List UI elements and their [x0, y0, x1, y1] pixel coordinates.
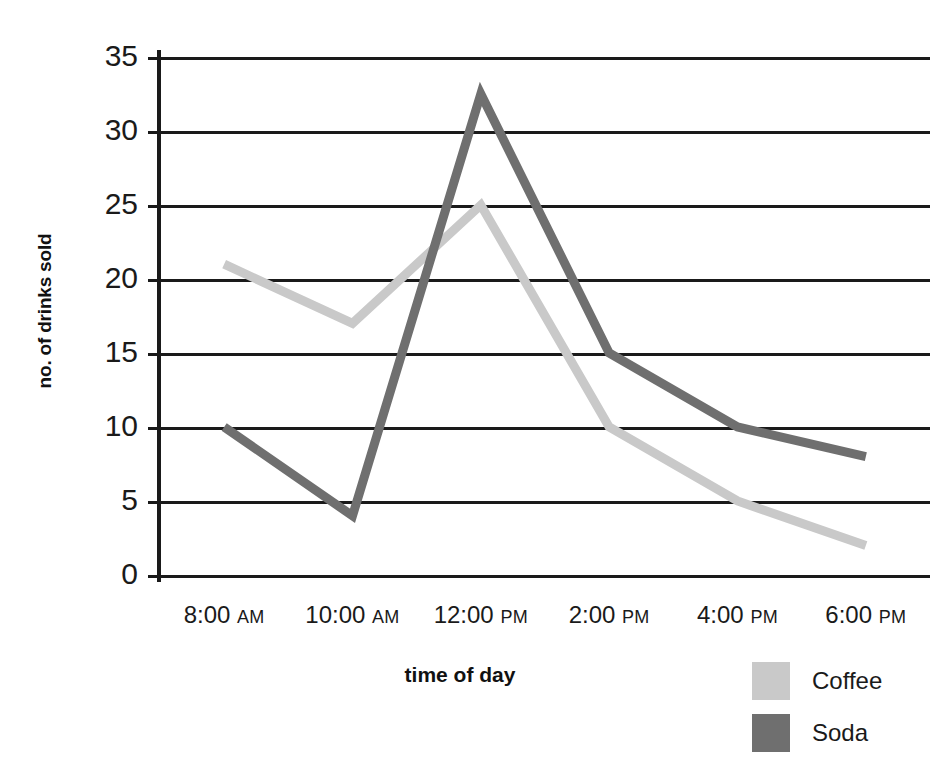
x-tick-meridiem: PM [622, 607, 650, 627]
x-tick-time: 10:00 [305, 601, 372, 628]
x-axis-tick-labels: 8:00 AM10:00 AM12:00 PM2:00 PM4:00 PM6:0… [160, 600, 930, 640]
y-axis-tick-mark [148, 427, 164, 430]
x-axis-tick-label: 6:00 PM [825, 600, 906, 632]
y-axis-tick-label: 5 [84, 485, 138, 515]
x-axis-tick-label: 10:00 AM [305, 600, 399, 632]
x-tick-meridiem: PM [500, 607, 528, 627]
legend-swatch-icon [752, 662, 790, 700]
y-axis-tick-labels: 05101520253035 [84, 0, 138, 770]
chart-legend: CoffeeSoda [752, 655, 932, 759]
plot-area [160, 57, 930, 575]
x-axis-tick-label: 2:00 PM [569, 600, 650, 632]
line-chart: no. of drinks sold 05101520253035 8:00 A… [0, 0, 934, 770]
gridline [160, 575, 930, 578]
y-axis-tick-label: 25 [84, 189, 138, 219]
y-axis-tick-mark [148, 131, 164, 134]
x-tick-time: 2:00 [569, 601, 622, 628]
x-axis-tick-label: 8:00 AM [184, 600, 265, 632]
series-lines [160, 57, 930, 575]
y-axis-tick-label: 20 [84, 263, 138, 293]
y-axis-tick-label: 10 [84, 411, 138, 441]
y-axis-tick-label: 0 [84, 559, 138, 589]
x-tick-time: 6:00 [825, 601, 878, 628]
y-axis-tick-label: 35 [84, 41, 138, 71]
x-tick-meridiem: AM [372, 607, 400, 627]
legend-swatch-icon [752, 714, 790, 752]
y-axis-tick-mark [148, 279, 164, 282]
legend-item-coffee[interactable]: Coffee [752, 655, 932, 707]
legend-label: Soda [812, 719, 868, 747]
y-axis-tick-mark [148, 57, 164, 60]
y-axis-tick-label: 15 [84, 337, 138, 367]
y-axis-tick-mark [148, 353, 164, 356]
x-axis-title: time of day [310, 663, 610, 687]
x-tick-time: 12:00 [434, 601, 501, 628]
y-axis-title: no. of drinks sold [34, 171, 56, 451]
x-tick-meridiem: AM [237, 607, 265, 627]
legend-item-soda[interactable]: Soda [752, 707, 932, 759]
y-axis-tick-mark [148, 205, 164, 208]
x-tick-meridiem: PM [879, 607, 907, 627]
y-axis-tick-label: 30 [84, 115, 138, 145]
y-axis-tick-mark [148, 575, 164, 578]
x-tick-time: 4:00 [697, 601, 750, 628]
legend-label: Coffee [812, 667, 882, 695]
y-axis-tick-mark [148, 501, 164, 504]
x-tick-meridiem: PM [750, 607, 778, 627]
x-axis-tick-label: 12:00 PM [434, 600, 528, 632]
x-axis-tick-label: 4:00 PM [697, 600, 778, 632]
x-tick-time: 8:00 [184, 601, 237, 628]
